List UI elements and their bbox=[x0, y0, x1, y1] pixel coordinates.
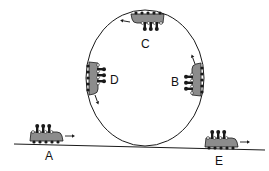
car-b bbox=[184, 63, 204, 96]
label-a: A bbox=[45, 150, 53, 162]
car-a bbox=[30, 124, 75, 144]
label-c: C bbox=[141, 38, 150, 50]
arrow-left-icon bbox=[120, 18, 130, 23]
car-c bbox=[131, 11, 164, 31]
car-d bbox=[86, 62, 106, 95]
car-e bbox=[205, 130, 250, 150]
label-b: B bbox=[171, 76, 179, 88]
arrow-down-icon bbox=[93, 94, 100, 105]
label-d: D bbox=[110, 74, 119, 86]
loop-diagram bbox=[0, 0, 269, 171]
arrow-right-icon bbox=[240, 140, 250, 144]
label-e: E bbox=[215, 155, 223, 167]
arrow-right-icon bbox=[65, 134, 75, 138]
arrow-up-icon bbox=[190, 54, 197, 65]
